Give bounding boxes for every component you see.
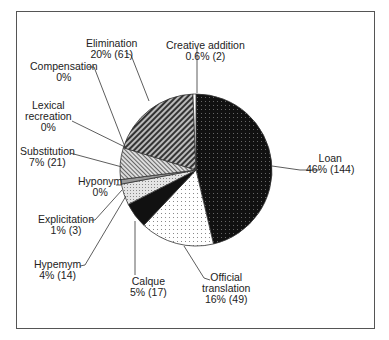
label-value: 0% xyxy=(25,122,72,133)
label-value: 46% (144) xyxy=(306,164,354,175)
label-value: 0% xyxy=(78,187,122,198)
label-value: 0.6% (2) xyxy=(166,51,245,62)
label-value: 20% (61) xyxy=(86,49,137,60)
label-value: 1% (3) xyxy=(38,225,94,236)
label-loan: Loan 46% (144) xyxy=(306,153,354,175)
label-value: 4% (14) xyxy=(34,270,81,281)
label-elimination: Elimination 20% (61) xyxy=(86,38,137,60)
label-value: 16% (49) xyxy=(202,294,250,305)
label-hypemym: Hypemym 4% (14) xyxy=(34,259,81,281)
label-official-translation: Official translation 16% (49) xyxy=(202,272,250,305)
leader-elimination xyxy=(126,53,149,101)
label-value: 5% (17) xyxy=(130,287,167,298)
leader-substitution xyxy=(70,153,122,167)
label-value: 0% xyxy=(30,72,98,83)
label-value: 7% (21) xyxy=(20,157,75,168)
label-calque: Calque 5% (17) xyxy=(130,276,167,298)
leader-lexical-recreation xyxy=(72,121,125,147)
label-compensation: Compensation 0% xyxy=(30,61,98,83)
label-substitution: Substitution 7% (21) xyxy=(20,146,75,168)
label-lexical-recreation: Lexical recreation 0% xyxy=(25,100,72,133)
label-creative-addition: Creative addition 0.6% (2) xyxy=(166,40,245,62)
label-explicitation: Explicitation 1% (3) xyxy=(38,214,94,236)
label-hyponym: Hyponym 0% xyxy=(78,176,122,198)
